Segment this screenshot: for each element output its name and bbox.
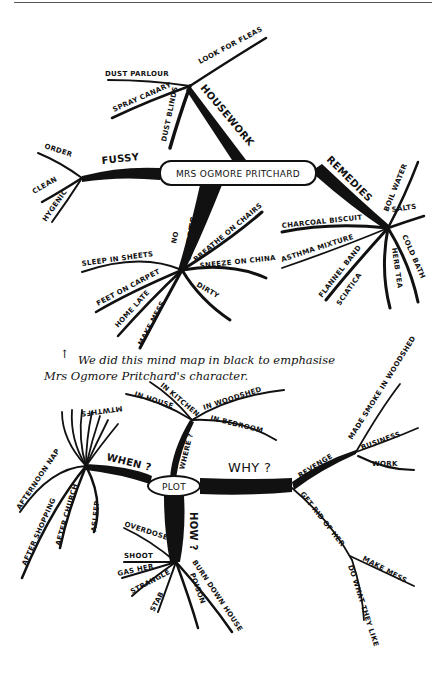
branch-order xyxy=(38,153,82,178)
label-sleep-in-sheets: SLEEP IN SHEETS xyxy=(81,250,154,268)
label-stab: STAB xyxy=(149,590,166,613)
note-line-1: We did this mind map in black to emphasi… xyxy=(78,353,335,367)
label-why: WHY ? xyxy=(228,460,271,475)
branch-how xyxy=(164,496,185,562)
label-dirty: DIRTY xyxy=(195,281,221,301)
label-clean: CLEAN xyxy=(31,175,59,196)
branch-herb-tea xyxy=(384,228,390,308)
label-sneeze-on-china: SNEEZE ON CHINA xyxy=(199,254,276,270)
center-label-plot: PLOT xyxy=(162,482,186,492)
mind-map-canvas: DUST PARLOUR LOOK FOR FLEAS SPRAY CANARY… xyxy=(0,0,446,674)
label-dust-parlour: DUST PARLOUR xyxy=(105,70,169,78)
branch-get-rid-of-her xyxy=(292,488,364,620)
label-gas-her: GAS HER xyxy=(117,562,155,578)
label-spray-canary: SPRAY CANARY xyxy=(112,81,174,114)
label-get-rid-of-her: GET RID OF HER xyxy=(298,490,346,548)
label-no: NO xyxy=(170,231,180,245)
note-arrow: ↑ xyxy=(60,347,70,361)
label-shoot: SHOOT xyxy=(124,552,153,560)
note-line-2: Mrs Ogmore Pritchard's character. xyxy=(43,369,248,383)
label-how: HOW ? xyxy=(188,512,199,551)
label-days-upside-down: MTWTHFS xyxy=(80,404,123,418)
branch-fussy xyxy=(82,168,160,182)
mind-map-ogmore: DUST PARLOUR LOOK FOR FLEAS SPRAY CANARY… xyxy=(31,25,427,348)
label-fussy: FUSSY xyxy=(101,151,140,166)
label-make-mess-2: MAKE MESS xyxy=(361,555,408,585)
label-salts: SALTS xyxy=(391,203,417,214)
branch-dirty xyxy=(182,270,230,320)
branch-asthma-mixture xyxy=(282,228,388,268)
branch-dust-parlour xyxy=(108,80,190,86)
branch-sneeze-on-china xyxy=(182,267,266,278)
label-asleep: ASLEEP xyxy=(90,500,101,532)
branch-why xyxy=(200,478,292,495)
label-work: WORK xyxy=(372,460,398,468)
label-in-bedroom: IN BEDROOM xyxy=(210,414,264,435)
label-after-shopping: AFTER SHOPPING xyxy=(21,497,58,567)
label-do-what-they-like: DO WHAT THEY LIKE xyxy=(346,564,380,647)
handwritten-note: ↑ We did this mind map in black to empha… xyxy=(43,347,335,383)
label-dust-blinds: DUST BLINDS xyxy=(160,86,180,143)
label-make-mess: MAKE MESS xyxy=(137,300,167,347)
label-made-smoke: MADE SMOKE IN WOODSHED xyxy=(347,335,418,441)
label-in-woodshed: IN WOODSHED xyxy=(202,385,263,412)
center-label-ogmore: MRS OGMORE PRITCHARD xyxy=(176,169,300,179)
